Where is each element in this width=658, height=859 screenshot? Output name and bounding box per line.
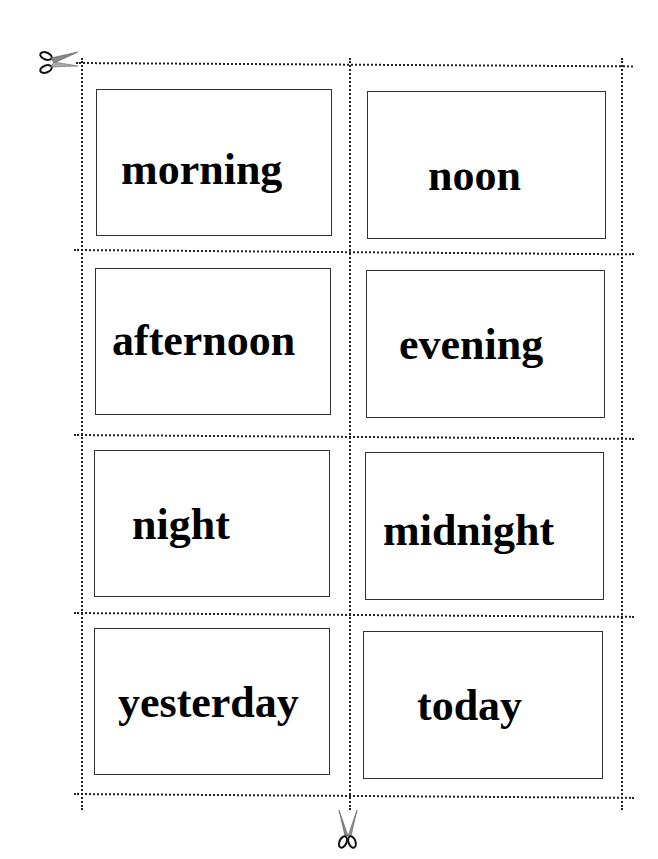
card-word: afternoon (112, 319, 295, 363)
word-card-noon: noon (367, 91, 606, 239)
cut-line-horizontal-5 (74, 793, 634, 799)
card-word: yesterday (118, 681, 299, 725)
card-word: today (417, 684, 522, 728)
cut-line-horizontal-2 (74, 249, 634, 255)
card-word: midnight (383, 509, 554, 553)
cut-line-vertical-right (621, 58, 623, 810)
word-card-today: today (363, 631, 603, 779)
word-card-morning: morning (96, 89, 332, 236)
word-card-night: night (94, 450, 330, 597)
card-word: evening (399, 323, 543, 367)
cut-line-horizontal-4 (74, 612, 634, 618)
cut-line-horizontal-1 (76, 62, 633, 67)
word-card-midnight: midnight (365, 452, 604, 600)
scissors-icon (337, 808, 359, 850)
scissors-icon (38, 50, 80, 76)
card-word: noon (428, 154, 521, 198)
cut-line-horizontal-3 (74, 434, 634, 440)
cut-line-vertical-middle (349, 58, 351, 810)
word-card-evening: evening (366, 270, 605, 418)
word-card-afternoon: afternoon (95, 268, 331, 415)
card-word: night (132, 503, 230, 547)
card-word: morning (121, 148, 282, 192)
word-card-yesterday: yesterday (94, 628, 330, 775)
